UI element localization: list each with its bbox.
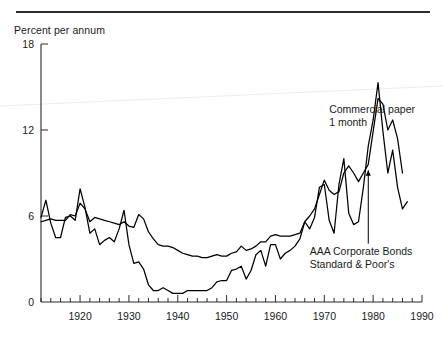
x-tick-label: 1940 <box>166 310 190 322</box>
x-tick-label: 1970 <box>313 310 337 322</box>
y-tick-label: 12 <box>22 124 34 136</box>
chart-figure: Percent per annum 0612181920193019401950… <box>0 0 443 337</box>
chart-annotations: Commercial paper1 monthAAA Corporate Bon… <box>310 103 416 270</box>
x-tick-label: 1920 <box>68 310 92 322</box>
line-chart-svg: 06121819201930194019501960197019801990 C… <box>0 0 443 337</box>
aaa-bonds-label-arrow-head-icon <box>366 170 371 176</box>
y-tick-label: 0 <box>28 296 34 308</box>
x-tick-label: 1930 <box>117 310 141 322</box>
y-tick-label: 6 <box>28 210 34 222</box>
x-tick-label: 1950 <box>215 310 239 322</box>
chart-tick-labels: 06121819201930194019501960197019801990 <box>22 38 434 322</box>
aaa-bonds-label-line1: AAA Corporate Bonds <box>310 245 413 257</box>
y-tick-label: 18 <box>22 38 34 50</box>
commercial-paper-label-line2: 1 month <box>329 116 367 128</box>
x-tick-label: 1980 <box>361 310 385 322</box>
x-tick-label: 1990 <box>410 310 434 322</box>
x-tick-label: 1960 <box>264 310 288 322</box>
commercial-paper-label-line1: Commercial paper <box>329 103 415 115</box>
aaa-bonds-label-line2: Standard & Poor's <box>310 258 395 270</box>
